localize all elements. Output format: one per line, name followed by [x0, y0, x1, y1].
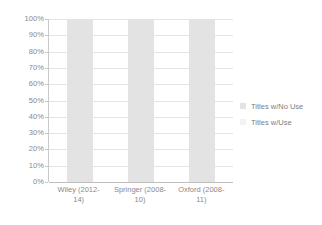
- y-tick-label: 100%: [0, 15, 44, 23]
- bar-segment[interactable]: [128, 19, 154, 182]
- y-tick-label: 80%: [0, 48, 44, 56]
- x-tick-label-line: 10): [109, 195, 171, 205]
- y-tick-label: 60%: [0, 80, 44, 88]
- bar-segment[interactable]: [67, 19, 93, 182]
- x-tick-label: Oxford (2008-11): [170, 185, 232, 204]
- legend-item[interactable]: Titles w/Use: [240, 114, 322, 130]
- x-tick-label-line: Wiley (2012-: [48, 185, 110, 195]
- bar-segment[interactable]: [189, 19, 215, 182]
- y-tick-label: 50%: [0, 97, 44, 105]
- x-tick-label: Wiley (2012-14): [48, 185, 110, 204]
- y-tick-label: 0%: [0, 178, 44, 186]
- bar-group[interactable]: [128, 19, 154, 182]
- legend-swatch-icon: [240, 119, 246, 125]
- chart-legend: Titles w/No UseTitles w/Use: [240, 98, 322, 130]
- y-tick-label: 10%: [0, 162, 44, 170]
- legend-label: Titles w/Use: [251, 118, 292, 127]
- y-tick-mark: [45, 182, 48, 183]
- y-tick-label: 70%: [0, 64, 44, 72]
- y-axis: 0%10%20%30%40%50%60%70%80%90%100%: [0, 0, 44, 225]
- x-tick-label: Springer (2008-10): [109, 185, 171, 204]
- bar-group[interactable]: [67, 19, 93, 182]
- plot-area: [48, 19, 232, 182]
- bar-group[interactable]: [189, 19, 215, 182]
- x-tick-label-line: 14): [48, 195, 110, 205]
- legend-label: Titles w/No Use: [251, 102, 303, 111]
- legend-item[interactable]: Titles w/No Use: [240, 98, 322, 114]
- y-tick-label: 90%: [0, 31, 44, 39]
- y-tick-label: 30%: [0, 129, 44, 137]
- y-tick-label: 40%: [0, 113, 44, 121]
- x-tick-label-line: 11): [170, 195, 232, 205]
- y-tick-label: 20%: [0, 145, 44, 153]
- x-tick-label-line: Oxford (2008-: [170, 185, 232, 195]
- x-axis: Wiley (2012-14)Springer (2008-10)Oxford …: [48, 185, 232, 221]
- legend-swatch-icon: [240, 103, 246, 109]
- chart-container: 0%10%20%30%40%50%60%70%80%90%100% Wiley …: [0, 0, 322, 225]
- axis-baseline: [49, 182, 233, 183]
- x-tick-label-line: Springer (2008-: [109, 185, 171, 195]
